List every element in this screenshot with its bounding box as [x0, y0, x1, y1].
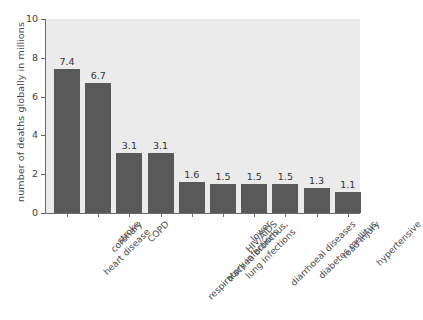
x-tick-mark: [254, 214, 255, 217]
x-tick-mark: [192, 214, 193, 217]
x-axis-category-label: COPD: [146, 219, 172, 245]
y-tick-mark: [41, 19, 45, 20]
bar: [272, 184, 298, 213]
y-tick-mark: [41, 58, 45, 59]
y-tick-label: 10: [8, 14, 38, 24]
bar-value-label: 6.7: [78, 70, 118, 81]
y-tick-label: 0: [8, 208, 38, 218]
x-tick-mark: [98, 214, 99, 217]
bar: [335, 192, 361, 213]
bar-value-label: 7.4: [47, 56, 87, 67]
bar: [116, 153, 142, 213]
bar: [304, 188, 330, 213]
x-axis-line: [45, 213, 360, 214]
bar: [54, 69, 80, 213]
y-tick-mark: [41, 135, 45, 136]
y-tick-mark: [41, 97, 45, 98]
y-axis-title: number of deaths globally in millions: [14, 12, 28, 212]
y-tick-label: 6: [8, 92, 38, 102]
x-tick-mark: [223, 214, 224, 217]
x-tick-mark: [285, 214, 286, 217]
bar: [210, 184, 236, 213]
bar: [241, 184, 267, 213]
y-tick-label: 2: [8, 169, 38, 179]
y-tick-mark: [41, 174, 45, 175]
x-tick-mark: [129, 214, 130, 217]
y-tick-mark: [41, 213, 45, 214]
bar: [179, 182, 205, 213]
x-tick-mark: [161, 214, 162, 217]
y-tick-label: 8: [8, 53, 38, 63]
bar: [148, 153, 174, 213]
bar: [85, 83, 111, 213]
bar-value-label: 1.1: [328, 179, 368, 190]
x-tick-mark: [67, 214, 68, 217]
bar-value-label: 3.1: [141, 140, 181, 151]
x-tick-mark: [317, 214, 318, 217]
x-tick-mark: [348, 214, 349, 217]
x-axis-category-label: coronaryheart disease: [94, 219, 152, 277]
y-tick-label: 4: [8, 130, 38, 140]
